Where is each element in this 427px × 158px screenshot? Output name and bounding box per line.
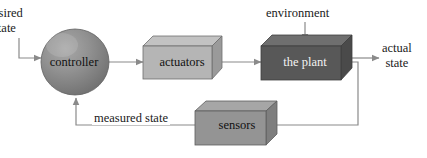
control-loop-diagram: controller actuators the plant sensors e… <box>0 0 427 158</box>
sensors-box-top <box>195 101 277 111</box>
controller-highlight <box>46 33 78 57</box>
actual-state-line-2: state <box>382 56 412 71</box>
diagram-graphics <box>0 0 427 158</box>
controller-label: controller <box>38 55 110 70</box>
actuators-label: actuators <box>146 55 218 70</box>
actual-state-line-1: actual <box>382 41 412 56</box>
desired-state-label: esired state <box>0 6 23 36</box>
actuators-box-top <box>143 36 222 46</box>
desired-state-line-2: state <box>0 21 23 36</box>
environment-label: environment <box>266 6 329 20</box>
measured-state-label: measured state <box>92 111 170 125</box>
desired-state-line-1: esired <box>0 6 23 21</box>
plant-box-top <box>261 35 352 46</box>
actual-state-label: actual state <box>382 41 412 71</box>
sensors-label: sensors <box>200 118 274 133</box>
plant-label: the plant <box>266 55 344 70</box>
